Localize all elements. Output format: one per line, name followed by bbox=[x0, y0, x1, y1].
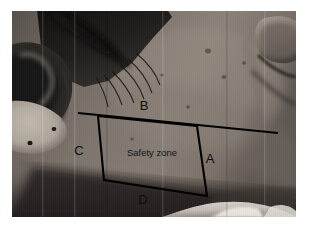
photograph-image bbox=[12, 11, 296, 217]
figure-root: A B C D Safety zone bbox=[0, 0, 310, 228]
clinical-photograph bbox=[12, 11, 296, 217]
